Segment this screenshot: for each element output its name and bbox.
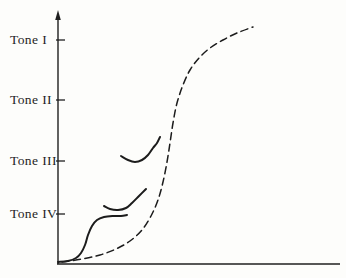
y-tick-label-tone-2: Tone II xyxy=(10,92,52,108)
solid-s-curve-tone-4-lower xyxy=(58,215,127,262)
tone-development-chart xyxy=(0,0,346,278)
tone-development-figure: Tone I Tone II Tone III Tone IV xyxy=(0,0,346,278)
solid-curve-tone-3 xyxy=(121,137,160,162)
y-tick-label-tone-1: Tone I xyxy=(10,32,47,48)
solid-curve-tone-4-upper xyxy=(104,189,146,210)
y-axis-arrowhead-icon xyxy=(55,10,61,20)
y-tick-label-tone-3: Tone III xyxy=(10,153,57,169)
y-tick-label-tone-4: Tone IV xyxy=(10,206,57,222)
